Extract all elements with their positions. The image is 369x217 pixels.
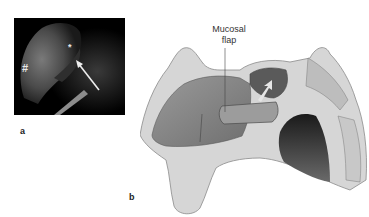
endoscopic-image-panel: # * (14, 18, 125, 115)
panel-label-b: b (129, 192, 135, 202)
callout-line-1: Mucosal (204, 24, 254, 35)
endoscopic-view (14, 18, 125, 115)
star-marker: * (68, 42, 72, 52)
sagittal-nasal-illustration (140, 40, 369, 217)
anatomy-illustration-panel (140, 40, 369, 217)
panel-label-a: a (20, 126, 25, 136)
mucosal-flap (219, 102, 278, 124)
hash-marker: # (22, 62, 28, 74)
